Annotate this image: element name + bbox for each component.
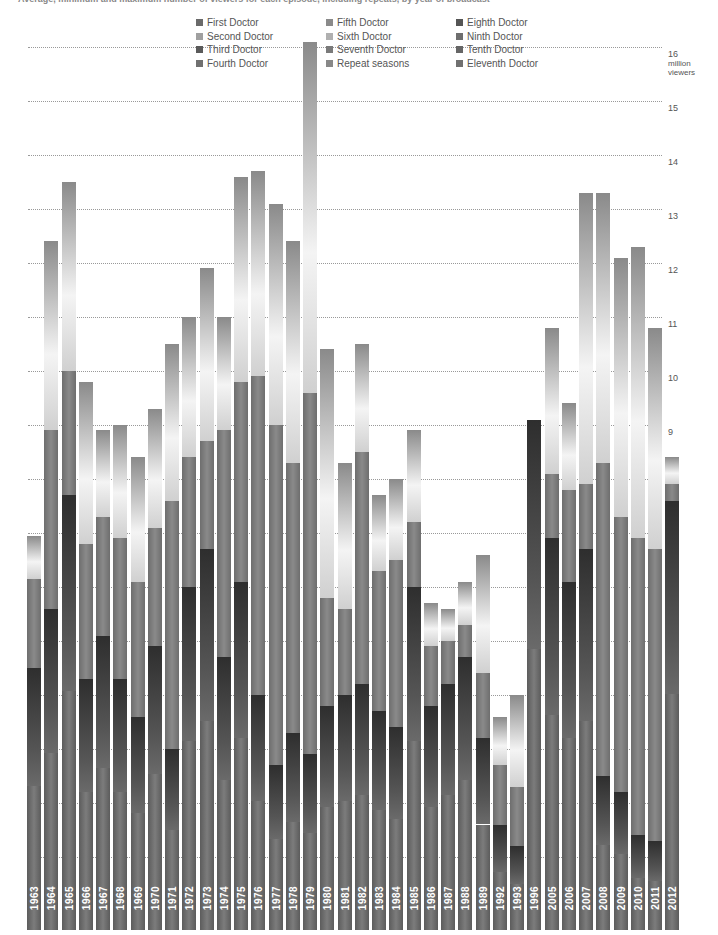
bar-segment-min bbox=[165, 749, 179, 830]
legend-item: First Doctor bbox=[196, 17, 259, 28]
y-tick-label: 10 bbox=[668, 373, 698, 383]
x-tick-label: 1979 bbox=[303, 870, 317, 926]
bar-segment-max bbox=[614, 258, 628, 517]
bar-segment-max bbox=[286, 241, 300, 462]
y-tick-label: 12 bbox=[668, 265, 698, 275]
bar-segment-avg bbox=[389, 560, 403, 727]
bar-segment-max bbox=[372, 495, 386, 571]
legend-swatch-icon bbox=[326, 60, 333, 67]
bar-segment-max bbox=[113, 425, 127, 538]
bar-segment-min bbox=[545, 538, 559, 714]
bar-segment-min bbox=[372, 711, 386, 809]
bar-segment-min bbox=[234, 582, 248, 739]
bar-segment-avg bbox=[217, 430, 231, 657]
bar-segment-min bbox=[665, 501, 679, 694]
bar-segment-avg bbox=[648, 549, 662, 841]
bar-2005: 2005 bbox=[545, 328, 559, 930]
legend-swatch-icon bbox=[456, 19, 463, 26]
bar-segment-min bbox=[424, 706, 438, 807]
bar-segment-max bbox=[44, 241, 58, 430]
bar-segment-avg bbox=[27, 579, 41, 668]
bar-segment-max bbox=[96, 430, 110, 516]
x-tick-label: 1965 bbox=[62, 870, 76, 926]
y-tick-label: 15 bbox=[668, 103, 698, 113]
legend-swatch-icon bbox=[196, 60, 203, 67]
bar-segment-min bbox=[389, 727, 403, 818]
bar-1973: 1973 bbox=[200, 268, 214, 930]
x-tick-label: 1972 bbox=[182, 870, 196, 926]
y-tick-label: 14 bbox=[668, 157, 698, 167]
bar-1985: 1985 bbox=[407, 430, 421, 930]
bar-1976: 1976 bbox=[251, 171, 265, 930]
bar-segment-min bbox=[148, 646, 162, 774]
bar-segment-max bbox=[562, 403, 576, 489]
bar-segment-min bbox=[269, 765, 283, 839]
legend-item: Third Doctor bbox=[196, 44, 262, 55]
gridline bbox=[28, 263, 662, 264]
legend-item: Eighth Doctor bbox=[456, 17, 528, 28]
bar-1993: 1993 bbox=[510, 695, 524, 930]
x-tick-label: 1963 bbox=[27, 870, 41, 926]
bar-1977: 1977 bbox=[269, 204, 283, 930]
bar-segment-max bbox=[320, 349, 334, 597]
bar-segment-avg bbox=[476, 673, 490, 738]
legend-item: Sixth Doctor bbox=[326, 31, 391, 42]
bar-segment-min bbox=[355, 684, 369, 795]
x-tick-label: 2009 bbox=[614, 870, 628, 926]
bar-segment-min bbox=[27, 668, 41, 786]
bar-segment-avg bbox=[614, 517, 628, 792]
bar-1968: 1968 bbox=[113, 425, 127, 930]
x-tick-label: 1967 bbox=[96, 870, 110, 926]
legend-swatch-icon bbox=[456, 60, 463, 67]
bar-segment-max bbox=[631, 247, 645, 539]
bar-segment-avg bbox=[320, 598, 334, 706]
bar-segment-max bbox=[441, 609, 455, 641]
bar-segment-min bbox=[562, 582, 576, 739]
x-tick-label: 1968 bbox=[113, 870, 127, 926]
x-tick-label: 2008 bbox=[596, 870, 610, 926]
bar-segment-avg bbox=[148, 528, 162, 647]
bar-segment-max bbox=[200, 268, 214, 441]
bar-2011: 2011 bbox=[648, 328, 662, 930]
bar-segment-avg bbox=[200, 441, 214, 549]
x-tick-label: 1973 bbox=[200, 870, 214, 926]
bar-segment-avg bbox=[441, 641, 455, 684]
bar-segment-avg bbox=[269, 425, 283, 765]
bar-1978: 1978 bbox=[286, 241, 300, 930]
x-tick-label: 1984 bbox=[389, 870, 403, 926]
legend-item: Second Doctor bbox=[196, 31, 273, 42]
bar-segment-min bbox=[320, 706, 334, 807]
bar-1979: 1979 bbox=[303, 42, 317, 930]
bar-segment-max bbox=[27, 536, 41, 579]
gridline bbox=[28, 209, 662, 210]
bar-segment-avg bbox=[44, 430, 58, 608]
bar-segment-max bbox=[338, 463, 352, 609]
bar-segment-max bbox=[493, 717, 507, 766]
bar-segment-max bbox=[596, 193, 610, 463]
bar-segment-min bbox=[476, 738, 490, 824]
x-tick-label: 1982 bbox=[355, 870, 369, 926]
legend-swatch-icon bbox=[196, 46, 203, 53]
x-tick-label: 1970 bbox=[148, 870, 162, 926]
bar-segment-avg bbox=[165, 501, 179, 749]
gridline bbox=[28, 101, 662, 102]
bar-chart: 12345678910111213141516millionviewers196… bbox=[0, 0, 718, 935]
bar-segment-avg bbox=[338, 609, 352, 695]
bar-segment-min bbox=[79, 679, 93, 792]
legend-swatch-icon bbox=[456, 46, 463, 53]
bar-segment-min bbox=[200, 549, 214, 720]
bar-segment-max bbox=[579, 193, 593, 485]
x-tick-label: 1987 bbox=[441, 870, 455, 926]
x-tick-label: 2012 bbox=[665, 870, 679, 926]
bar-segment-avg bbox=[286, 463, 300, 733]
bar-segment-min bbox=[527, 420, 541, 650]
bar-1974: 1974 bbox=[217, 317, 231, 930]
bar-segment-avg bbox=[562, 490, 576, 582]
bar-segment-max bbox=[648, 328, 662, 549]
legend-item: Fourth Doctor bbox=[196, 58, 268, 69]
bar-segment-avg bbox=[458, 625, 472, 657]
x-tick-label: 1981 bbox=[338, 870, 352, 926]
bar-segment-max bbox=[303, 42, 317, 393]
bar-segment-avg bbox=[424, 646, 438, 705]
bar-segment-max bbox=[251, 171, 265, 376]
